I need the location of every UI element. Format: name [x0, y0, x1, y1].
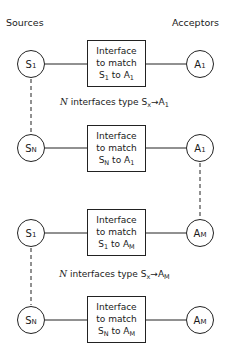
source-node: SN	[17, 306, 45, 334]
acceptors-header: Acceptors	[172, 17, 219, 28]
source-node: S1	[17, 219, 45, 247]
interface-box: Interfaceto match S1 to A1	[87, 40, 146, 87]
interface-box: Interfaceto match SN to AM	[87, 296, 146, 343]
group-label: N interfaces type Sx→AM	[0, 269, 229, 279]
acceptor-node: A1	[186, 50, 214, 78]
interface-box: Interfaceto match SN to A1	[87, 125, 146, 172]
acceptor-node: AM	[186, 219, 214, 247]
source-node: S1	[17, 50, 45, 78]
group-label: N interfaces type Sx→A1	[0, 97, 229, 107]
sources-header: Sources	[6, 17, 44, 28]
acceptor-node: A1	[186, 134, 214, 162]
interface-box: Interfaceto match S1 to AM	[87, 209, 146, 256]
acceptor-node: AM	[186, 306, 214, 334]
source-node: SN	[17, 134, 45, 162]
